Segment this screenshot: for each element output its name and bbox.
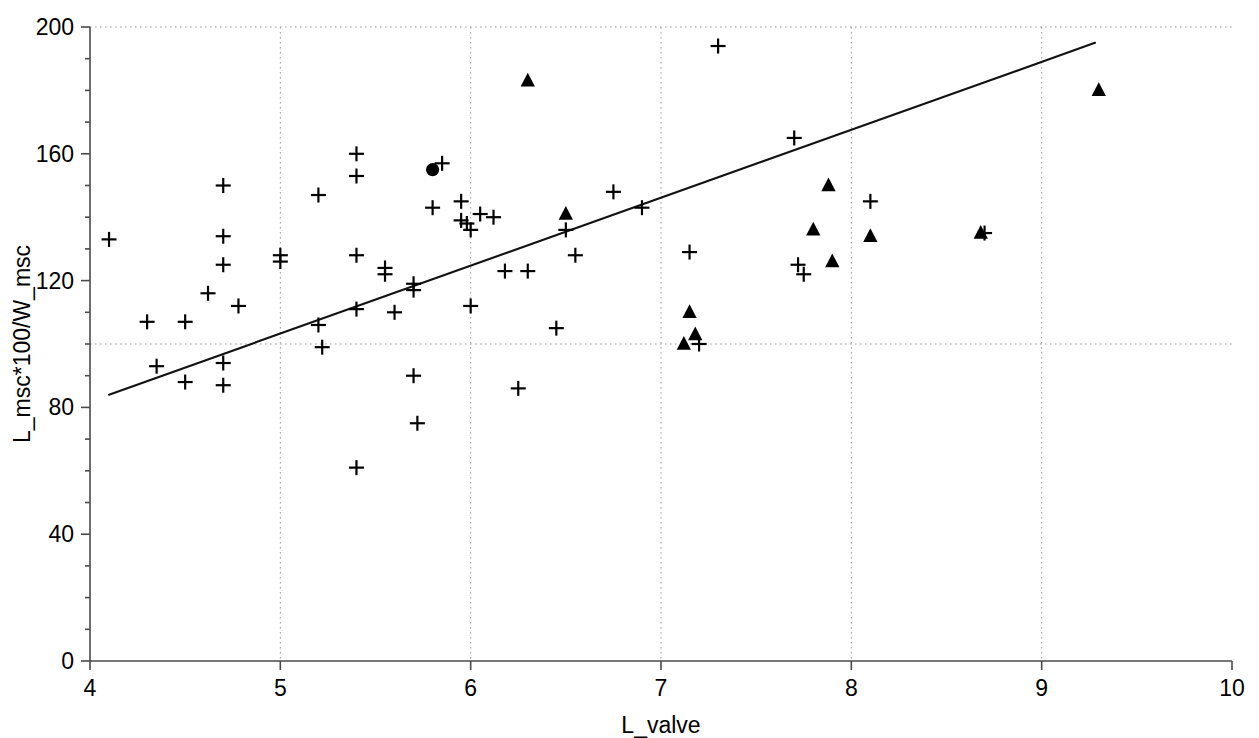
data-point-triangle	[806, 222, 820, 236]
data-point-plus	[311, 188, 326, 203]
data-point-plus	[216, 356, 231, 371]
tick-labels-layer: 0408012016020045678910	[36, 14, 1245, 701]
data-point-plus	[349, 248, 364, 263]
regression-line	[109, 43, 1095, 395]
data-point-plus	[311, 317, 326, 332]
gridlines-layer	[90, 27, 1232, 661]
data-point-plus	[863, 194, 878, 209]
y-tick-label: 0	[61, 648, 74, 674]
data-point-plus	[349, 146, 364, 161]
data-point-plus	[497, 264, 512, 279]
data-point-plus	[454, 194, 469, 209]
y-tick-label: 40	[48, 521, 74, 547]
data-point-plus	[178, 375, 193, 390]
data-point-plus	[349, 168, 364, 183]
data-point-plus	[425, 200, 440, 215]
data-markers-layer	[102, 39, 1106, 476]
data-point-plus	[520, 264, 535, 279]
data-point-plus	[149, 359, 164, 374]
x-tick-label: 6	[464, 675, 477, 701]
data-point-plus	[549, 321, 564, 336]
y-tick-label: 160	[36, 141, 74, 167]
scatter-plot-figure: 0408012016020045678910 L_valveL_msc*100/…	[0, 0, 1259, 738]
plot-canvas: 0408012016020045678910 L_valveL_msc*100/…	[0, 0, 1259, 738]
data-point-triangle	[863, 228, 877, 242]
data-point-triangle	[1092, 82, 1106, 96]
data-point-plus	[140, 314, 155, 329]
data-point-triangle	[559, 206, 573, 220]
data-point-plus	[387, 305, 402, 320]
data-point-plus	[102, 232, 117, 247]
tick-marks-layer	[81, 27, 1232, 670]
data-point-plus	[511, 381, 526, 396]
x-tick-label: 8	[845, 675, 858, 701]
data-point-triangle	[682, 304, 696, 318]
data-point-triangle	[677, 336, 691, 350]
data-point-plus	[568, 248, 583, 263]
y-tick-label: 80	[48, 394, 74, 420]
data-point-plus	[231, 298, 246, 313]
x-tick-label: 10	[1219, 675, 1245, 701]
data-point-plus	[201, 286, 216, 301]
data-point-plus	[606, 184, 621, 199]
data-point-plus	[178, 314, 193, 329]
data-point-plus	[315, 340, 330, 355]
data-point-triangle	[821, 177, 835, 191]
data-point-plus	[216, 229, 231, 244]
y-tick-label: 200	[36, 14, 74, 40]
x-tick-label: 4	[84, 675, 97, 701]
data-point-triangle	[974, 225, 988, 239]
data-point-plus	[558, 222, 573, 237]
data-point-plus	[216, 257, 231, 272]
x-tick-label: 5	[274, 675, 287, 701]
y-tick-label: 120	[36, 268, 74, 294]
data-point-plus	[711, 39, 726, 54]
data-point-plus	[349, 460, 364, 475]
data-point-plus	[473, 207, 488, 222]
data-point-triangle	[825, 254, 839, 268]
x-tick-label: 7	[655, 675, 668, 701]
y-axis-title: L_msc*100/W_msc	[9, 245, 35, 443]
axis-titles-layer: L_valveL_msc*100/W_msc	[9, 245, 701, 738]
data-point-plus	[216, 378, 231, 393]
data-point-plus	[216, 178, 231, 193]
data-point-plus	[410, 416, 425, 431]
regression-fit-line	[109, 43, 1095, 395]
data-point-triangle	[521, 73, 535, 87]
data-point-plus	[463, 298, 478, 313]
x-axis-title: L_valve	[621, 712, 700, 738]
x-tick-label: 9	[1035, 675, 1048, 701]
data-point-plus	[486, 210, 501, 225]
data-point-plus	[406, 368, 421, 383]
data-point-plus	[787, 130, 802, 145]
data-point-circle	[426, 163, 439, 176]
data-point-triangle	[688, 326, 702, 340]
data-point-plus	[682, 245, 697, 260]
